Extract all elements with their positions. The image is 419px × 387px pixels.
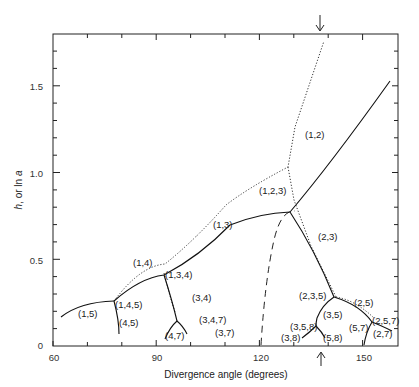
label-2-5-7: (2,5,7): [372, 315, 399, 326]
y-tick-1.5: 1.5: [30, 81, 43, 92]
label-1-2: (1,2): [305, 129, 325, 140]
label-5-8: (5,8): [323, 332, 343, 343]
label-1-3-4: (1,3,4): [165, 269, 192, 280]
x-tick-150: 150: [356, 352, 372, 363]
label-3-5: (3,5): [323, 309, 343, 320]
label-3-7: (3,7): [215, 327, 235, 338]
label-3-8: (3,8): [281, 332, 301, 343]
label-5-7: (5,7): [349, 322, 369, 333]
label-4-5: (4,5): [119, 317, 139, 328]
label-2-7: (2,7): [373, 328, 393, 339]
y-ticks: [53, 51, 398, 329]
label-1-4-5: (1,4,5): [115, 299, 142, 310]
solid-curves: [61, 81, 392, 345]
plot-frame: [53, 34, 398, 346]
x-tick-60: 60: [49, 352, 60, 363]
y-tick-0: 0: [38, 340, 43, 351]
y-tick-0.5: 0.5: [30, 255, 43, 266]
y-axis-title: h, or ln a: [13, 170, 24, 209]
label-3-5-8: (3,5,8): [290, 321, 317, 332]
label-2-5: (2,5): [354, 297, 374, 308]
y-axis-title-a: a: [13, 170, 24, 176]
label-1-5: (1,5): [78, 308, 98, 319]
label-1-4: (1,4): [133, 257, 153, 268]
y-axis-title-mid: , or ln: [13, 176, 24, 204]
dotted-curves: [114, 41, 374, 318]
label-3-4: (3,4): [192, 292, 212, 303]
label-1-3: (1,3): [213, 219, 233, 230]
y-tick-1.0: 1.0: [30, 168, 43, 179]
label-3-4-7: (3,4,7): [199, 314, 226, 325]
phyllotaxis-chart: 60 90 120 150 0 0.5 1.0 1.5 Divergence a…: [0, 0, 419, 387]
label-1-2-3: (1,2,3): [259, 185, 286, 196]
x-axis-title: Divergence angle (degrees): [164, 369, 287, 380]
label-4-7: (4,7): [165, 330, 185, 341]
label-2-3-5: (2,3,5): [299, 290, 326, 301]
label-2-3: (2,3): [318, 231, 338, 242]
region-labels: (1,5) (1,4,5) (4,5) (1,4) (1,3) (1,3,4) …: [78, 129, 399, 343]
x-tick-120: 120: [253, 352, 269, 363]
x-tick-90: 90: [152, 352, 163, 363]
